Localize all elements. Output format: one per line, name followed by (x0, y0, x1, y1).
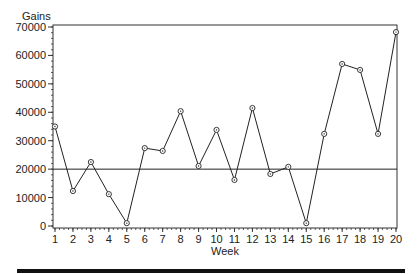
data-point-dot (377, 133, 378, 134)
data-point-dot (54, 126, 55, 127)
x-tick-label: 3 (88, 233, 94, 245)
x-tick-label: 12 (246, 233, 258, 245)
x-tick-label: 5 (124, 233, 130, 245)
y-tick-label: 0 (40, 220, 46, 232)
x-tick-label: 19 (372, 233, 384, 245)
y-tick-label: 70000 (15, 21, 46, 33)
y-tick-label: 10000 (15, 192, 46, 204)
y-axis-title: Gains (22, 10, 51, 22)
data-point-dot (126, 222, 127, 223)
x-tick-label: 11 (229, 233, 240, 245)
plot-frame (53, 25, 397, 228)
x-tick-label: 16 (318, 233, 330, 245)
data-point-dot (72, 190, 73, 191)
y-tick-label: 50000 (15, 78, 46, 90)
x-tick-label: 10 (210, 233, 222, 245)
bottom-rule (17, 269, 405, 273)
y-tick-label: 20000 (15, 163, 46, 175)
data-point-dot (162, 150, 163, 151)
x-tick-label: 13 (264, 233, 276, 245)
data-point-dot (198, 165, 199, 166)
y-tick-label: 60000 (15, 49, 46, 61)
data-point-dot (341, 63, 342, 64)
data-point-dot (288, 166, 289, 167)
x-tick-label: 8 (178, 233, 184, 245)
x-tick-label: 6 (142, 233, 148, 245)
x-tick-label: 14 (282, 233, 294, 245)
x-tick-label: 1 (52, 233, 58, 245)
x-tick-label: 9 (196, 233, 202, 245)
x-tick-label: 4 (106, 233, 112, 245)
data-point-dot (216, 129, 217, 130)
data-point-dot (234, 179, 235, 180)
data-point-dot (306, 222, 307, 223)
x-tick-label: 7 (160, 233, 166, 245)
data-point-dot (144, 147, 145, 148)
data-point-dot (395, 31, 396, 32)
data-point-dot (324, 133, 325, 134)
data-point-dot (108, 193, 109, 194)
x-tick-label: 2 (70, 233, 76, 245)
data-point-dot (270, 173, 271, 174)
y-tick-label: 30000 (15, 135, 46, 147)
x-tick-label: 18 (354, 233, 366, 245)
line-chart: 010000200003000040000500006000070000 123… (0, 0, 417, 274)
data-point-dot (90, 161, 91, 162)
data-point-dot (180, 110, 181, 111)
x-axis-title: Week (211, 245, 239, 257)
data-point-dot (252, 107, 253, 108)
x-tick-label: 15 (300, 233, 312, 245)
y-tick-label: 40000 (15, 106, 46, 118)
x-tick-label: 20 (390, 233, 402, 245)
data-point-dot (359, 69, 360, 70)
x-tick-label: 17 (336, 233, 348, 245)
